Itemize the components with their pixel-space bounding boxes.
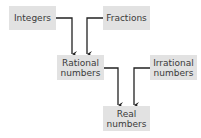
node-integers-label: Integers (14, 13, 51, 23)
node-rational-line1: Rational (62, 58, 99, 68)
node-irrational-numbers: Irrational numbers (150, 55, 197, 80)
node-integers: Integers (9, 6, 56, 30)
node-rational-numbers: Rational numbers (57, 55, 104, 80)
arrow-fractions-to-rational (87, 18, 103, 54)
node-rational-line2: numbers (61, 68, 101, 78)
node-fractions: Fractions (103, 6, 150, 30)
arrow-irrational-to-real (134, 68, 150, 105)
arrow-rational-to-real (104, 68, 118, 105)
node-real-line2: numbers (107, 119, 147, 129)
node-real-line1: Real (117, 109, 136, 119)
node-irrational-line2: numbers (154, 68, 194, 78)
arrow-integers-to-rational (56, 18, 72, 54)
node-irrational-line1: Irrational (153, 58, 194, 68)
node-real-numbers: Real numbers (103, 106, 150, 131)
node-fractions-label: Fractions (106, 13, 147, 23)
